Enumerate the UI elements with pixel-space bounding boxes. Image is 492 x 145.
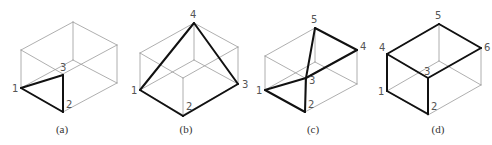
box-edge bbox=[265, 28, 315, 56]
vertex-label: 1 bbox=[131, 85, 137, 96]
edge-3-4 bbox=[387, 54, 428, 78]
edge-1-2 bbox=[21, 88, 63, 112]
box-edge bbox=[194, 23, 238, 47]
edge-1-2 bbox=[265, 90, 305, 112]
box-edge bbox=[21, 22, 73, 50]
box-edge bbox=[21, 50, 63, 74]
vertex-label: 4 bbox=[190, 9, 196, 20]
box-edge bbox=[63, 45, 117, 74]
edge-2-3 bbox=[305, 78, 306, 112]
figure-a: 123(a) bbox=[12, 22, 117, 136]
figure-b: 1234(b) bbox=[131, 9, 248, 136]
edge-5-4 bbox=[315, 28, 357, 50]
vertex-label: 1 bbox=[256, 85, 262, 96]
edge-4-3 bbox=[306, 50, 357, 78]
box-edge bbox=[73, 60, 117, 83]
vertex-label: 3 bbox=[309, 75, 315, 86]
vertex-label: 1 bbox=[12, 83, 18, 94]
edge-1-3 bbox=[265, 78, 306, 90]
box-edge bbox=[194, 60, 238, 84]
edge-4-3 bbox=[194, 23, 238, 84]
vertex-label: 5 bbox=[435, 10, 441, 21]
box-edge bbox=[140, 53, 183, 78]
vertex-label: 1 bbox=[378, 86, 384, 97]
edge-4-5 bbox=[387, 24, 439, 54]
edge-1-2 bbox=[140, 90, 183, 116]
figure-d: 123456(d) bbox=[378, 10, 490, 136]
vertex-label: 3 bbox=[60, 62, 66, 73]
highlighted-path bbox=[21, 75, 63, 112]
vertex-label: 4 bbox=[360, 41, 366, 52]
vertex-label: 2 bbox=[308, 99, 314, 110]
figure-caption: (a) bbox=[56, 123, 69, 136]
vertex-label: 2 bbox=[66, 99, 72, 110]
diagram-stage: 123(a)1234(b)12345(c)123456(d) bbox=[0, 0, 492, 145]
box-edge bbox=[73, 22, 117, 45]
vertex-label: 3 bbox=[424, 66, 430, 77]
box-edge bbox=[140, 60, 194, 90]
figure-caption: (c) bbox=[307, 123, 320, 136]
vertex-label: 2 bbox=[431, 101, 437, 112]
box-edge bbox=[439, 61, 481, 85]
figure-caption: (d) bbox=[432, 123, 445, 136]
vertex-label: 4 bbox=[379, 42, 385, 53]
figure-caption: (b) bbox=[180, 123, 193, 136]
edge-1-4 bbox=[140, 23, 194, 90]
isometric-box-figures: 123(a)1234(b)12345(c)123456(d) bbox=[0, 0, 492, 145]
edge-5-6 bbox=[439, 24, 481, 48]
vertex-label: 2 bbox=[186, 101, 192, 112]
edge-3-5 bbox=[306, 28, 315, 78]
vertex-label: 6 bbox=[484, 42, 490, 53]
box-edge bbox=[265, 56, 305, 78]
vertex-label: 5 bbox=[311, 14, 317, 25]
edge-1-2 bbox=[387, 91, 428, 114]
figure-c: 12345(c) bbox=[256, 14, 366, 136]
box-edge bbox=[140, 23, 194, 53]
box-edge bbox=[315, 62, 357, 84]
vertex-label: 3 bbox=[242, 79, 248, 90]
